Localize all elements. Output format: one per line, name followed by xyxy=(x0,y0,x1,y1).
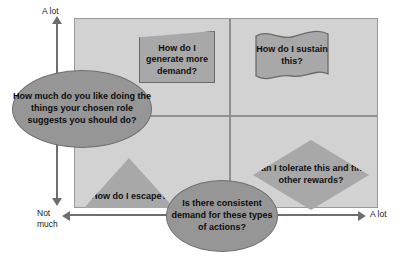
quadrant-label-bottom-left: How do I escape? xyxy=(91,191,167,203)
quadrant-shape-top-right: How do I sustain this? xyxy=(254,30,330,82)
quadrant-label-top-left: How do I generate more demand? xyxy=(140,43,214,78)
x-axis-right-label: A lot xyxy=(370,209,387,220)
quadrant-label-top-right: How do I sustain this? xyxy=(254,44,330,67)
diagram-canvas: A lot Not much A lot How do I generate m… xyxy=(0,0,402,257)
x-axis-left-label: Not much xyxy=(37,208,58,229)
y-axis-question-text: How much do you like doing the things yo… xyxy=(13,91,151,126)
y-axis-arrow-up-icon xyxy=(52,16,62,24)
y-axis-question-ellipse: How much do you like doing the things yo… xyxy=(12,70,152,148)
y-axis-arrow-down-icon xyxy=(52,198,62,206)
quadrant-shape-top-left: How do I generate more demand? xyxy=(139,31,215,83)
quadrant-divider-vertical xyxy=(229,19,231,207)
y-axis-top-label: A lot xyxy=(42,6,59,17)
x-axis-arrow-right-icon xyxy=(358,211,366,221)
x-axis-question-ellipse: Is there consistent demand for these typ… xyxy=(166,180,278,252)
x-axis-arrow-left-icon xyxy=(62,211,70,221)
x-axis-question-text: Is there consistent demand for these typ… xyxy=(167,198,277,233)
quadrant-label-bottom-right: Can I tolerate this and find other rewar… xyxy=(253,163,369,186)
